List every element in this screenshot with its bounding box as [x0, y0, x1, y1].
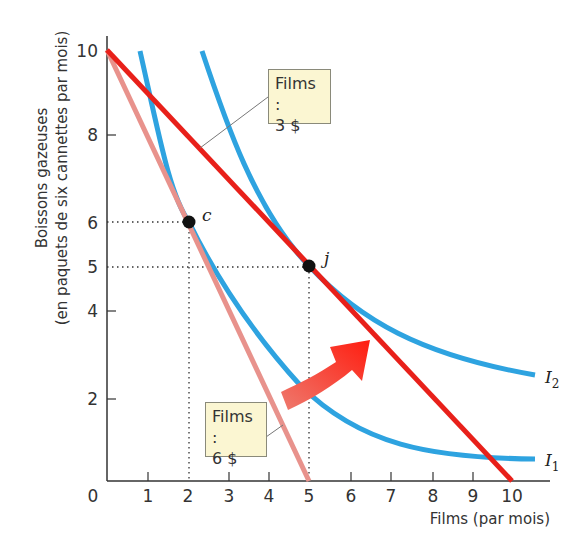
y-axis-title-line2: (en paquets de six cannettes par mois)	[53, 31, 71, 325]
point-j	[303, 260, 316, 273]
leader-line-6	[266, 425, 283, 437]
y-tick-10: 10	[76, 41, 98, 61]
y-tick-4: 4	[87, 301, 98, 321]
curve-label-i2: I2	[544, 367, 559, 391]
x-tick-0: 0	[88, 486, 99, 506]
curve-label-i1: I1	[544, 450, 559, 474]
x-tick-2: 2	[183, 486, 194, 506]
x-tick-7: 7	[386, 486, 397, 506]
x-tick-10: 10	[501, 486, 523, 506]
y-tick-2: 2	[87, 389, 98, 409]
annotation-films-3-line1: Films :	[275, 73, 324, 115]
x-tick-9: 9	[468, 486, 479, 506]
annotation-films-3-line2: 3 $	[275, 115, 324, 136]
x-tick-1: 1	[143, 486, 154, 506]
x-tick-3: 3	[224, 486, 235, 506]
y-axis-title-line1: Boissons gazeuses	[33, 107, 51, 248]
y-tick-8: 8	[87, 125, 98, 145]
annotation-films-3: Films : 3 $	[268, 69, 331, 124]
annotation-films-6: Films : 6 $	[205, 402, 267, 457]
y-tick-5: 5	[87, 257, 98, 277]
annotation-films-6-line1: Films :	[212, 406, 260, 448]
annotation-films-6-line2: 6 $	[212, 448, 260, 469]
x-axis-title: Films (par mois)	[430, 510, 550, 528]
y-tick-6: 6	[87, 213, 98, 233]
x-tick-4: 4	[264, 486, 275, 506]
indifference-curve-i1	[140, 51, 535, 459]
x-tick-8: 8	[428, 486, 439, 506]
point-c-label: c	[202, 205, 212, 225]
point-c	[183, 216, 196, 229]
point-j-label: j	[320, 248, 330, 268]
x-tick-5: 5	[304, 486, 315, 506]
x-tick-6: 6	[346, 486, 357, 506]
